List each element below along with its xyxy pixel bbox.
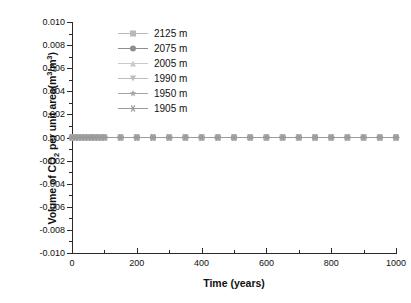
legend-item-1950-m[interactable]: 1950 m	[117, 86, 237, 101]
legend-item-1905-m[interactable]: 1905 m	[117, 101, 237, 116]
y-axis-title-post: )	[46, 52, 58, 55]
y-tick-label: -0.008	[5, 225, 65, 235]
y-tick-label: 0.006	[5, 63, 65, 73]
x-axis-title: Time (years)	[72, 277, 396, 289]
x-tick-major	[396, 248, 397, 254]
legend-marker-icon	[117, 86, 149, 101]
legend-label: 1950 m	[149, 88, 187, 99]
legend-item-1990-m[interactable]: 1990 m	[117, 71, 237, 86]
y-tick-label: -0.006	[5, 202, 65, 212]
legend-marker-icon	[117, 71, 149, 86]
y-tick-label: -0.004	[5, 179, 65, 189]
x-tick-label: 0	[42, 258, 102, 268]
legend-marker-icon	[117, 26, 149, 41]
y-tick-label: 0.010	[5, 17, 65, 27]
y-tick-label: 0.000	[5, 133, 65, 143]
y-tick-label: 0.008	[5, 40, 65, 50]
y-tick-label: 0.002	[5, 109, 65, 119]
legend-label: 2075 m	[149, 43, 187, 54]
x-tick-label: 600	[236, 258, 296, 268]
y-tick-label: -0.002	[5, 156, 65, 166]
marker-star	[129, 90, 136, 97]
y-axis-title-pre: Volume of CO	[46, 157, 58, 224]
legend-item-2125-m[interactable]: 2125 m	[117, 26, 237, 41]
legend-marker-icon	[117, 56, 149, 71]
legend-label: 2005 m	[149, 58, 187, 69]
x-tick-label: 1000	[366, 258, 411, 268]
legend-label: 1905 m	[149, 103, 187, 114]
chart-figure: Volume of CO2 per unit area(m3/m3) -0.01…	[0, 0, 411, 303]
legend-item-2005-m[interactable]: 2005 m	[117, 56, 237, 71]
legend-label: 1990 m	[149, 73, 187, 84]
legend-marker-icon	[117, 101, 149, 116]
x-tick-label: 400	[172, 258, 232, 268]
marker-square	[130, 31, 136, 37]
y-axis-title-sup2: 3	[45, 56, 54, 60]
legend-label: 2125 m	[149, 28, 187, 39]
marker-circle	[130, 46, 136, 52]
x-tick-label: 200	[107, 258, 167, 268]
legend-item-2075-m[interactable]: 2075 m	[117, 41, 237, 56]
chart-legend: 2125 m2075 m2005 m1990 m1950 m1905 m	[117, 26, 237, 116]
y-tick-label: -0.010	[5, 248, 65, 258]
legend-marker-icon	[117, 41, 149, 56]
y-tick-label: 0.004	[5, 86, 65, 96]
x-tick-label: 800	[301, 258, 361, 268]
marker-asterisk	[129, 105, 136, 111]
